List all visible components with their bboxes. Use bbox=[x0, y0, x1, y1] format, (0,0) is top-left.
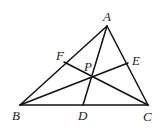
side-ca bbox=[107, 26, 148, 105]
side-ab bbox=[20, 26, 107, 105]
label-b: B bbox=[12, 108, 20, 123]
point-labels: A B C D E F P bbox=[12, 9, 152, 124]
label-a: A bbox=[102, 9, 111, 24]
label-f: F bbox=[55, 48, 65, 63]
label-e: E bbox=[131, 53, 140, 68]
label-d: D bbox=[77, 108, 88, 123]
label-p: P bbox=[83, 59, 92, 74]
cevian-be bbox=[20, 63, 128, 105]
label-c: C bbox=[143, 109, 152, 124]
triangle-diagram: A B C D E F P bbox=[0, 0, 161, 138]
